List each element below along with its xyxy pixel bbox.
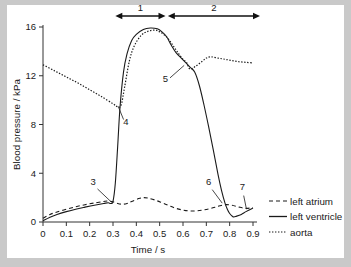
legend-label-text: aorta [290,227,313,238]
span-arrow-1: 1 [115,5,165,19]
callout-label-7: 7 [240,181,245,192]
chart-legend: left atriumleft ventricleaorta [269,196,343,238]
callout-leader [170,65,184,77]
legend-label-text: left atrium [290,196,333,207]
x-tick-label: 0.9 [246,228,259,239]
y-tick-label: 0 [31,216,36,227]
arrowhead-right [253,13,260,20]
y-tick-label: 4 [31,168,36,179]
x-tick-label: 0.3 [106,228,119,239]
x-axis-title: Time / s [131,244,166,255]
legend-item-aorta[interactable]: aorta [269,227,313,238]
x-tick-label: 0.2 [83,228,96,239]
arrowhead-left [168,13,175,20]
callout-label-3: 3 [91,176,96,187]
arrowhead-right [159,13,166,20]
series-line-left-ventricle [43,28,253,221]
y-tick-label: 8 [31,119,36,130]
x-tick-label: 0 [40,228,45,239]
y-tick-label: 16 [25,21,36,32]
legend-item-left-atrium[interactable]: left atrium [269,196,333,207]
callout-label-6: 6 [206,176,211,187]
y-tick-label: 12 [25,70,36,81]
axes: 048121600.10.20.30.40.50.60.70.80.9 [25,21,259,238]
blood-pressure-chart: 048121600.10.20.30.40.50.60.70.80.9 1234… [7,5,344,258]
x-tick-label: 0.6 [176,228,189,239]
x-tick-label: 0.8 [223,228,236,239]
series-line-aorta [43,30,253,107]
figure-white-panel: 048121600.10.20.30.40.50.60.70.80.9 1234… [7,5,344,258]
legend-item-left-ventricle[interactable]: left ventricle [269,211,343,222]
arrowhead-left [115,13,122,20]
x-tick-label: 0.1 [60,228,73,239]
callout-label-5: 5 [163,73,168,84]
callout-7: 7 [240,181,247,210]
span-arrow-label-1: 1 [138,5,143,13]
x-tick-label: 0.5 [153,228,166,239]
figure-root: 048121600.10.20.30.40.50.60.70.80.9 1234… [0,0,351,267]
y-axis-title: Blood pressure / kPa [11,78,22,169]
callout-leader [212,190,222,203]
series-line-left-atrium [43,198,253,219]
callout-leader [244,196,247,210]
series-lines [43,28,253,221]
x-tick-label: 0.7 [200,228,213,239]
span-arrow-label-2: 2 [211,5,216,13]
callout-6: 6 [206,176,222,203]
callout-label-4: 4 [123,116,128,127]
callout-leader [98,189,112,203]
legend-label-text: left ventricle [290,211,343,222]
callout-5: 5 [163,65,184,83]
x-tick-label: 0.4 [130,228,143,239]
span-arrow-2: 2 [168,5,260,19]
callout-3: 3 [91,176,112,203]
